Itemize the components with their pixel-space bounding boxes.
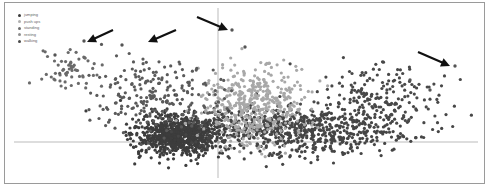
data-point — [304, 132, 307, 135]
data-point — [119, 75, 122, 78]
data-point — [310, 108, 313, 111]
data-point — [410, 83, 413, 86]
data-point — [172, 124, 175, 127]
data-point — [155, 98, 158, 101]
data-point — [155, 123, 158, 126]
data-point — [256, 105, 259, 108]
data-point — [273, 143, 276, 146]
data-point — [412, 105, 415, 108]
data-point — [142, 139, 145, 142]
data-point — [220, 113, 223, 116]
data-point — [224, 145, 227, 148]
data-point — [366, 113, 369, 116]
data-point — [234, 115, 237, 118]
data-point — [162, 148, 165, 151]
data-point — [97, 117, 100, 120]
data-point — [291, 112, 294, 115]
data-point — [264, 63, 267, 66]
data-point — [267, 154, 270, 157]
data-point — [272, 80, 275, 83]
data-point — [316, 90, 319, 93]
data-point — [428, 98, 431, 101]
data-point — [46, 55, 49, 58]
data-point — [392, 148, 395, 151]
data-point — [242, 135, 245, 138]
data-point — [372, 68, 375, 71]
data-point — [392, 130, 395, 133]
data-point — [85, 82, 88, 85]
data-point — [300, 139, 303, 142]
data-point — [194, 140, 197, 143]
data-point — [159, 97, 162, 100]
data-point — [172, 89, 175, 92]
data-point — [250, 94, 253, 97]
data-point — [283, 108, 286, 111]
data-point — [377, 105, 380, 108]
data-point — [248, 98, 251, 101]
data-point — [210, 142, 213, 145]
data-point — [433, 114, 436, 117]
data-point — [157, 60, 160, 63]
data-point — [102, 94, 105, 97]
data-point — [223, 106, 226, 109]
data-point — [146, 100, 149, 103]
data-point — [338, 126, 341, 129]
data-point — [303, 96, 306, 99]
data-point — [148, 67, 151, 70]
data-point — [265, 90, 268, 93]
data-point — [179, 143, 182, 146]
data-point — [175, 76, 178, 79]
data-point — [336, 129, 339, 132]
data-point — [413, 93, 416, 96]
data-point — [191, 70, 194, 73]
data-point — [128, 52, 131, 55]
data-point — [70, 66, 73, 69]
outlier-point — [120, 43, 123, 46]
data-point — [147, 123, 150, 126]
data-point — [138, 136, 141, 139]
data-point — [350, 146, 353, 149]
data-point — [210, 87, 213, 90]
annotation-arrow-icon — [92, 30, 113, 39]
data-point — [216, 130, 219, 133]
data-point — [166, 138, 169, 141]
data-point — [266, 128, 269, 131]
data-point — [44, 50, 47, 53]
data-point — [187, 111, 190, 114]
data-point — [219, 78, 222, 81]
data-point — [270, 110, 273, 113]
data-point — [92, 74, 95, 77]
data-point — [228, 156, 231, 159]
data-point — [399, 68, 402, 71]
data-point — [255, 109, 258, 112]
data-point — [360, 152, 363, 155]
data-point — [453, 105, 456, 108]
data-point — [330, 84, 333, 87]
data-point — [393, 103, 396, 106]
data-point — [217, 100, 220, 103]
data-point — [87, 108, 90, 111]
data-point — [351, 125, 354, 128]
data-point — [256, 137, 259, 140]
data-point — [361, 137, 364, 140]
data-point — [415, 86, 418, 89]
data-point — [125, 123, 128, 126]
data-point — [223, 130, 226, 133]
data-point — [230, 89, 233, 92]
data-point — [387, 103, 390, 106]
data-point — [170, 130, 173, 133]
data-point — [143, 110, 146, 113]
data-point — [243, 106, 246, 109]
data-point — [188, 108, 191, 111]
data-point — [346, 132, 349, 135]
data-point — [60, 60, 63, 63]
data-point — [223, 97, 226, 100]
data-point — [52, 78, 55, 81]
data-point — [230, 123, 233, 126]
data-point — [230, 87, 233, 90]
data-point — [249, 79, 252, 82]
data-point — [388, 87, 391, 90]
data-point — [357, 89, 360, 92]
data-point — [194, 144, 197, 147]
data-point — [132, 139, 135, 142]
